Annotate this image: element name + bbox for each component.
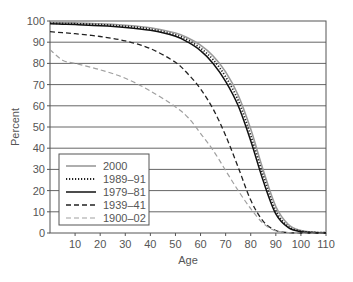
legend-entry-label: 1979–81 <box>103 186 146 198</box>
x-tick-label: 50 <box>169 238 181 250</box>
legend-entry-label: 1900–02 <box>103 212 146 224</box>
y-tick-label: 50 <box>33 121 45 133</box>
y-tick-label: 100 <box>27 15 45 27</box>
y-tick-label: 60 <box>33 100 45 112</box>
x-tick-label: 20 <box>94 238 106 250</box>
x-tick-label: 40 <box>144 238 156 250</box>
x-tick-label: 60 <box>194 238 206 250</box>
y-tick-label: 0 <box>39 227 45 239</box>
x-tick-label: 100 <box>292 238 310 250</box>
y-tick-label: 70 <box>33 79 45 91</box>
x-axis-label: Age <box>178 254 198 266</box>
legend-entry-label: 1989–91 <box>103 173 146 185</box>
x-tick-label: 110 <box>317 238 335 250</box>
x-tick-label: 10 <box>69 238 81 250</box>
y-tick-label: 80 <box>33 57 45 69</box>
y-tick-label: 40 <box>33 142 45 154</box>
legend-entry-label: 2000 <box>103 160 127 172</box>
x-tick-label: 70 <box>220 238 232 250</box>
x-tick-label: 30 <box>119 238 131 250</box>
survival-curve-chart: 0102030405060708090100 10203040506070809… <box>0 0 353 282</box>
x-axis-ticks: 102030405060708090100110 <box>69 233 335 250</box>
y-tick-label: 30 <box>33 163 45 175</box>
legend-entry-label: 1939–41 <box>103 199 146 211</box>
y-axis-ticks: 0102030405060708090100 <box>27 15 50 239</box>
x-tick-label: 80 <box>245 238 257 250</box>
y-tick-label: 20 <box>33 185 45 197</box>
y-tick-label: 10 <box>33 206 45 218</box>
y-axis-label: Percent <box>9 108 21 146</box>
x-tick-label: 90 <box>270 238 282 250</box>
legend: 20001989–911979–811939–411900–02 <box>59 154 149 225</box>
y-tick-label: 90 <box>33 36 45 48</box>
